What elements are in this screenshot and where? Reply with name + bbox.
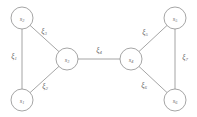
graph-canvas: s1s2s3s4s5s6 ξ1ξ2ξ3ξ4ξ5ξ6ξ7 [0, 0, 197, 117]
edge-label-e1: ξ1 [11, 52, 17, 61]
edge-label-e2: ξ2 [42, 82, 48, 91]
graph-node-s2: s2 [11, 7, 33, 29]
edge-labels-layer: ξ1ξ2ξ3ξ4ξ5ξ6ξ7 [11, 27, 188, 91]
graph-node-s3: s3 [56, 48, 78, 70]
graph-node-s4: s4 [120, 48, 142, 70]
edge-label-e7: ξ7 [182, 53, 188, 62]
graph-node-s1: s1 [11, 89, 33, 111]
edge-label-e5: ξ5 [142, 28, 148, 37]
graph-node-s6: s6 [164, 89, 186, 111]
graph-node-s5: s5 [164, 7, 186, 29]
graph-diagram: s1s2s3s4s5s6 ξ1ξ2ξ3ξ4ξ5ξ6ξ7 [0, 0, 197, 117]
edge-label-e3: ξ3 [41, 27, 47, 36]
edge-label-e4: ξ4 [96, 46, 102, 55]
edge-label-e6: ξ6 [141, 81, 147, 90]
